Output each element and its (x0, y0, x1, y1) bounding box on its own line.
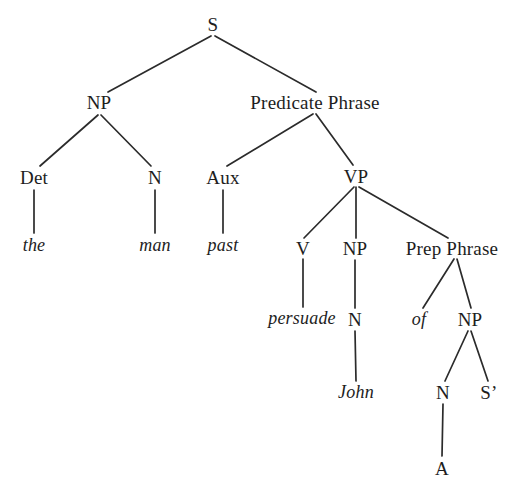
tree-node-vp: VP (344, 167, 369, 186)
tree-node-man: man (139, 236, 171, 254)
tree-node-aux: Aux (206, 168, 239, 187)
tree-node-v: V (296, 239, 310, 258)
tree-node-np3: NP (458, 310, 483, 329)
tree-node-sbar: S’ (480, 383, 497, 402)
tree-node-s: S (208, 15, 219, 34)
tree-node-the: the (23, 236, 46, 254)
tree-node-np1: NP (87, 93, 112, 112)
tree-node-prepp: Prep Phrase (406, 239, 498, 258)
tree-node-det: Det (20, 168, 48, 187)
tree-node-np2: NP (343, 239, 368, 258)
tree-node-layer: SNPPredicate PhraseDetNAuxVPthemanpastVN… (0, 0, 518, 500)
tree-node-n3: N (436, 383, 450, 402)
tree-node-predp: Predicate Phrase (250, 93, 379, 112)
tree-node-a: A (435, 459, 449, 478)
tree-node-past: past (208, 236, 239, 254)
tree-node-n1: N (148, 168, 162, 187)
syntax-tree-figure: SNPPredicate PhraseDetNAuxVPthemanpastVN… (0, 0, 518, 500)
tree-node-persuade: persuade (268, 309, 336, 327)
tree-node-john: John (338, 383, 374, 401)
tree-node-n2: N (348, 310, 362, 329)
tree-node-of: of (412, 310, 426, 328)
